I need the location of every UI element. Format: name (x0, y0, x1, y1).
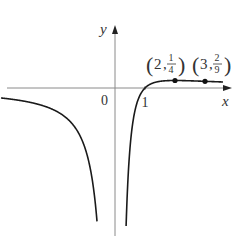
y-axis-arrow-icon (112, 25, 118, 34)
svg-text:2: 2 (154, 56, 162, 72)
svg-text:,: , (209, 56, 213, 72)
point-3-two-ninths (202, 79, 207, 84)
svg-text:4: 4 (169, 64, 174, 75)
svg-text:1: 1 (169, 52, 174, 63)
svg-text:9: 9 (215, 64, 220, 75)
y-axis-label: y (98, 21, 107, 37)
point-label-2-quarter: ( 2 , 1 4 ) (146, 52, 185, 77)
chart: y x 0 1 ( 2 , 1 4 ) ( 3 , 2 9 ) (0, 0, 242, 248)
curve-left-branch (1, 98, 97, 221)
point-label-3-two-ninths: ( 3 , 2 9 ) (192, 52, 231, 77)
x-axis-label: x (221, 93, 229, 109)
svg-text:(: ( (146, 52, 153, 77)
x-tick-label-1: 1 (142, 95, 149, 110)
svg-text:): ) (178, 52, 185, 77)
origin-label: 0 (101, 93, 108, 108)
svg-text:3: 3 (200, 56, 208, 72)
x-axis-arrow-icon (223, 85, 232, 91)
svg-text:,: , (163, 56, 167, 72)
svg-text:(: ( (192, 52, 199, 77)
svg-text:): ) (224, 52, 231, 77)
point-2-quarter (172, 78, 177, 83)
svg-text:2: 2 (215, 52, 220, 63)
